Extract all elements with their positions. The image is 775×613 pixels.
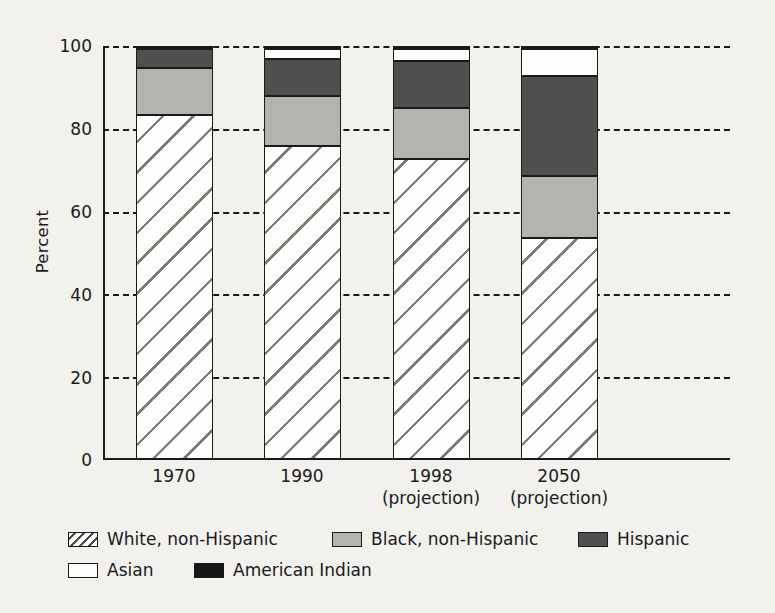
segment-hispanic-1998[interactable] xyxy=(393,61,470,108)
segment-american-indian-1970[interactable] xyxy=(136,46,213,49)
legend-label-black-non-hispanic: Black, non-Hispanic xyxy=(371,531,538,548)
segment-american-indian-1990[interactable] xyxy=(264,46,341,49)
legend-label-white-non-hispanic: White, non-Hispanic xyxy=(107,531,278,548)
segment-white-non-hispanic-1998[interactable] xyxy=(393,159,470,460)
y-tick-label-80: 80 xyxy=(32,121,92,138)
legend-item-hispanic[interactable]: Hispanic xyxy=(578,531,689,548)
legend-swatch-white-non-hispanic-icon xyxy=(68,532,98,547)
bar-2050[interactable] xyxy=(521,46,598,460)
segment-white-non-hispanic-1990[interactable] xyxy=(264,146,341,460)
segment-black-non-hispanic-2050[interactable] xyxy=(521,176,598,238)
legend-label-asian: Asian xyxy=(107,562,153,579)
x-tick-note-2050: (projection) xyxy=(474,488,644,510)
bar-1998[interactable] xyxy=(393,46,470,460)
bar-1990[interactable] xyxy=(264,46,341,460)
x-tick-label-2050: 2050 (projection) xyxy=(474,466,644,510)
legend-swatch-black-non-hispanic-icon xyxy=(332,532,362,547)
legend-item-black-non-hispanic[interactable]: Black, non-Hispanic xyxy=(332,531,578,548)
x-tick-year-2050: 2050 xyxy=(474,466,644,488)
segment-american-indian-2050[interactable] xyxy=(521,46,598,49)
segment-white-non-hispanic-1970[interactable] xyxy=(136,115,213,460)
legend-item-american-indian[interactable]: American Indian xyxy=(194,562,372,579)
legend-row-1: White, non-Hispanic Black, non-Hispanic … xyxy=(68,524,728,555)
legend-label-hispanic: Hispanic xyxy=(617,531,689,548)
segment-hispanic-2050[interactable] xyxy=(521,76,598,176)
segment-black-non-hispanic-1970[interactable] xyxy=(136,68,213,116)
segment-asian-1990[interactable] xyxy=(264,49,341,59)
legend-label-american-indian: American Indian xyxy=(233,562,372,579)
segment-asian-2050[interactable] xyxy=(521,49,598,76)
segment-hispanic-1970[interactable] xyxy=(136,49,213,67)
y-axis-title: Percent xyxy=(33,182,52,302)
legend-swatch-asian-icon xyxy=(68,563,98,578)
y-tick-label-60: 60 xyxy=(32,204,92,221)
legend-row-2: Asian American Indian xyxy=(68,555,728,586)
legend-item-white-non-hispanic[interactable]: White, non-Hispanic xyxy=(68,531,332,548)
plot-area xyxy=(103,46,730,460)
legend-swatch-american-indian-icon xyxy=(194,563,224,578)
segment-white-non-hispanic-2050[interactable] xyxy=(521,238,598,460)
y-tick-label-0: 0 xyxy=(32,452,92,469)
y-tick-label-100: 100 xyxy=(32,38,92,55)
y-tick-label-20: 20 xyxy=(32,370,92,387)
legend-item-asian[interactable]: Asian xyxy=(68,562,194,579)
bar-1970[interactable] xyxy=(136,46,213,460)
segment-american-indian-1998[interactable] xyxy=(393,46,470,49)
segment-black-non-hispanic-1998[interactable] xyxy=(393,108,470,159)
legend-swatch-hispanic-icon xyxy=(578,532,608,547)
y-tick-label-40: 40 xyxy=(32,287,92,304)
segment-black-non-hispanic-1990[interactable] xyxy=(264,96,341,146)
chart-legend: White, non-Hispanic Black, non-Hispanic … xyxy=(68,524,728,586)
segment-asian-1998[interactable] xyxy=(393,49,470,61)
stacked-bar-chart-figure: Percent 100 80 60 40 20 0 xyxy=(0,0,775,613)
segment-hispanic-1990[interactable] xyxy=(264,59,341,96)
